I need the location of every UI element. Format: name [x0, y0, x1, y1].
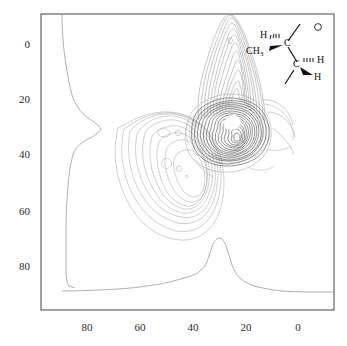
nmr-contour-figure: 0 20 40 60 80 80 60 40 20 0 H CH3 C C H … [0, 0, 347, 346]
structure-label-c-lower: C [293, 59, 300, 69]
x-tick-label-0: 0 [283, 322, 313, 333]
structure-label-h-upper: H [260, 30, 267, 40]
y-tick-label-0: 0 [8, 39, 30, 50]
structure-label-c-upper: C [284, 38, 291, 48]
x-tick-label-20: 20 [231, 322, 261, 333]
y-tick-label-80: 80 [8, 261, 30, 272]
y-tick-label-60: 60 [8, 206, 30, 217]
structure-label-h-lower: H [314, 72, 321, 82]
y-tick-label-20: 20 [8, 94, 30, 105]
methyl-subscript: 3 [260, 50, 264, 58]
x-tick-label-80: 80 [72, 322, 102, 333]
structure-label-h-right: H [317, 55, 324, 65]
x-tick-label-60: 60 [125, 322, 155, 333]
plot-canvas [0, 0, 347, 346]
y-tick-label-40: 40 [8, 149, 30, 160]
methyl-text: CH [246, 45, 260, 56]
plot-frame [41, 14, 334, 310]
structure-label-methyl: CH3 [246, 46, 263, 56]
x-tick-label-40: 40 [178, 322, 208, 333]
